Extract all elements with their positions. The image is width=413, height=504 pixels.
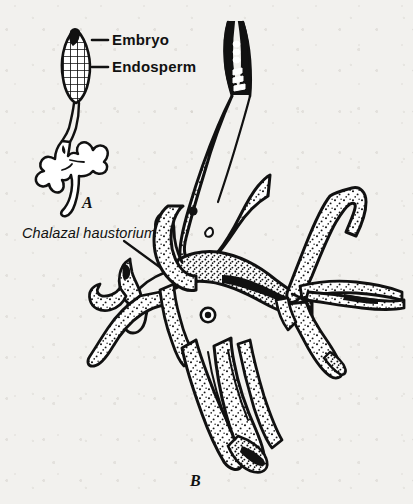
figure-b-nucleus-upper-ring	[205, 228, 213, 237]
panel-letter-a: A	[82, 194, 93, 212]
figure-b-left-finger-2	[89, 284, 126, 311]
chalazal-haustorium-label: Chalazal haustorium	[22, 225, 156, 241]
figure-a-group	[36, 29, 108, 216]
panel-letter-b: B	[190, 472, 201, 490]
endosperm-label: Endosperm	[112, 58, 196, 75]
figure-b-nucleolus	[205, 312, 211, 318]
embryo-label: Embryo	[112, 31, 169, 48]
figure-b-nucleus-upper	[188, 206, 197, 215]
botanical-figure-illustration	[0, 0, 413, 504]
figure-a-haustorium	[36, 141, 108, 216]
figure-b-group	[88, 22, 404, 472]
